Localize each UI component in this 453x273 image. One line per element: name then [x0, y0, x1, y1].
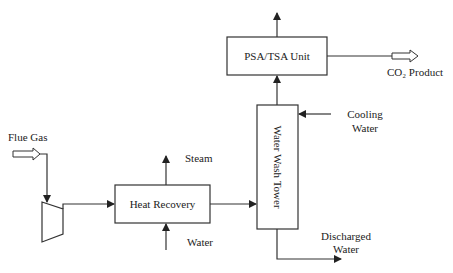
psa-tsa-unit: PSA/TSA Unit	[227, 37, 327, 75]
co2-product-label: CO₂ Product	[387, 66, 443, 78]
heat-recovery-unit: Heat Recovery	[115, 185, 210, 223]
cooling-water-label-line2: Water	[352, 122, 378, 134]
steam-label: Steam	[185, 152, 213, 164]
heat-recovery-label: Heat Recovery	[130, 198, 196, 210]
flue-gas-label: Flue Gas	[8, 131, 47, 143]
discharged-water-label-line1: Discharged	[321, 230, 371, 242]
process-flow-diagram: Flue Gas Heat Recovery Steam Water Water…	[0, 0, 453, 273]
compressor-icon	[42, 202, 63, 242]
water-wash-tower-unit: Water Wash Tower	[257, 105, 298, 229]
water-label: Water	[187, 236, 213, 248]
flue-gas-to-compressor-line	[40, 154, 47, 202]
water-wash-tower-label: Water Wash Tower	[272, 125, 284, 209]
flue-gas-inlet-arrow	[13, 148, 40, 160]
cooling-water-label-line1: Cooling	[347, 108, 383, 120]
discharged-water-label-line2: Water	[333, 243, 359, 255]
co2-product-outlet-arrow	[392, 50, 418, 62]
psa-tsa-label: PSA/TSA Unit	[244, 50, 310, 62]
compressor-to-heat-recovery-line	[63, 204, 114, 209]
